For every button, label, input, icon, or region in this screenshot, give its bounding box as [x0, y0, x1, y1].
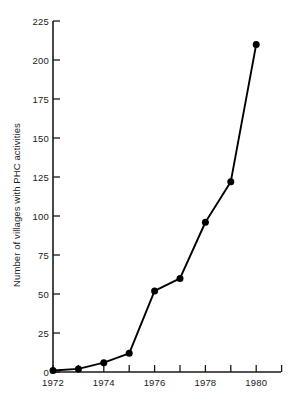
x-axis-tick-label: 1976 [144, 377, 166, 388]
data-series-line [53, 44, 256, 370]
y-axis-tick-label: 25 [38, 328, 49, 339]
y-axis-tick-label: 50 [38, 289, 49, 300]
y-axis-tick-label: 100 [33, 211, 49, 222]
data-point-markers [50, 41, 260, 374]
y-axis-tick-label: 175 [33, 94, 49, 105]
data-point-marker [253, 41, 260, 48]
chart-figure: Number of villages with PHC activities 0… [0, 0, 290, 400]
data-point-marker [100, 359, 107, 366]
y-axis-label: Number of villages with PHC activities [11, 123, 22, 287]
y-axis-tick-label: 200 [33, 55, 49, 66]
data-point-marker [151, 287, 158, 294]
data-point-marker [126, 350, 133, 357]
y-axis-tick-label: 75 [38, 250, 49, 261]
data-point-marker [227, 178, 234, 185]
data-point-marker [50, 367, 57, 374]
data-point-marker [202, 219, 209, 226]
y-axis-tick-label: 150 [33, 133, 49, 144]
y-axis-tick-label: 125 [33, 172, 49, 183]
y-axis-ticks [53, 21, 60, 372]
x-axis-tick-label: 1974 [93, 377, 115, 388]
x-axis-tick-label: 1978 [194, 377, 216, 388]
data-point-marker [75, 365, 82, 372]
y-axis-tick-label: 0 [44, 367, 49, 378]
axes [53, 21, 281, 372]
x-axis-tick-label: 1980 [245, 377, 267, 388]
data-point-marker [177, 275, 184, 282]
y-axis-tick-label: 225 [33, 16, 49, 27]
x-axis-tick-label: 1972 [42, 377, 64, 388]
